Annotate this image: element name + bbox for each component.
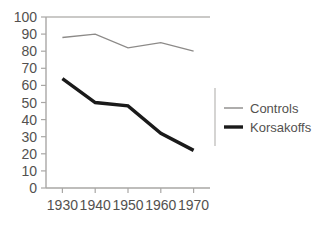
legend-label-korsakoffs: Korsakoffs [250, 120, 312, 135]
line-chart: 100 90 80 70 60 50 40 30 20 10 0 1930 19… [0, 0, 320, 234]
y-tick-label: 70 [21, 60, 37, 76]
x-tick-label: 1940 [80, 197, 111, 213]
x-tick-label: 1930 [47, 197, 78, 213]
x-tick-label: 1950 [112, 197, 143, 213]
y-tick-label: 20 [21, 146, 37, 162]
y-tick-label: 30 [21, 129, 37, 145]
x-tick-label: 1970 [178, 197, 209, 213]
legend-label-controls: Controls [250, 101, 299, 116]
x-tick-label: 1960 [145, 197, 176, 213]
y-tick-label: 100 [14, 9, 38, 25]
y-tick-label: 0 [29, 180, 37, 196]
y-tick-label: 60 [21, 77, 37, 93]
y-tick-label: 10 [21, 163, 37, 179]
chart-figure: 100 90 80 70 60 50 40 30 20 10 0 1930 19… [0, 0, 320, 234]
x-axis-labels: 1930 1940 1950 1960 1970 [47, 197, 210, 213]
y-tick-label: 80 [21, 43, 37, 59]
y-tick-label: 50 [21, 95, 37, 111]
y-tick-label: 90 [21, 26, 37, 42]
y-tick-label: 40 [21, 112, 37, 128]
